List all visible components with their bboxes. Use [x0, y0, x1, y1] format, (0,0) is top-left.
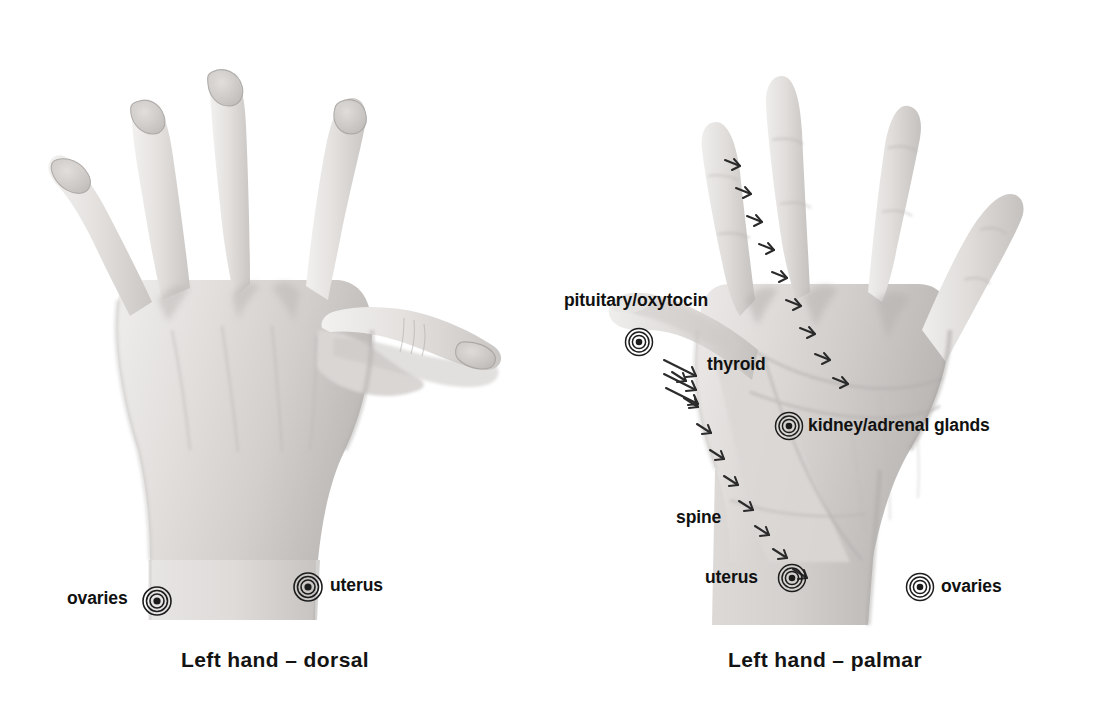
marker-ovaries-dorsal: [142, 586, 172, 616]
label-thyroid: thyroid: [707, 356, 766, 374]
marker-uterus-dorsal: [293, 572, 323, 602]
label-uterus-palmar: uterus: [705, 569, 758, 587]
panel-left-hand-palmar: pituitary/oxytocin thyroid kidney/adrena…: [550, 0, 1100, 718]
caption-left-hand-palmar: Left hand – palmar: [550, 648, 1100, 672]
panel-left-hand-dorsal: ovaries uterus Left hand – dorsal: [0, 0, 550, 718]
label-pituitary-oxytocin: pituitary/oxytocin: [564, 292, 708, 310]
label-uterus-dorsal: uterus: [330, 577, 383, 595]
hand-illustration-palmar: [550, 0, 1100, 640]
caption-left-hand-dorsal: Left hand – dorsal: [0, 648, 550, 672]
marker-pituitary-oxytocin: [624, 327, 654, 357]
marker-ovaries-palmar: [905, 572, 935, 602]
label-ovaries-palmar: ovaries: [941, 578, 1002, 596]
reflexology-chart: ovaries uterus Left hand – dorsal: [0, 0, 1100, 718]
marker-kidney-adrenal-glands: [774, 411, 804, 441]
hand-illustration-dorsal: [0, 0, 550, 640]
marker-uterus-palmar: [777, 563, 807, 593]
label-spine: spine: [676, 509, 721, 527]
label-kidney-adrenal-glands: kidney/adrenal glands: [808, 417, 990, 435]
label-ovaries-dorsal: ovaries: [67, 590, 128, 608]
